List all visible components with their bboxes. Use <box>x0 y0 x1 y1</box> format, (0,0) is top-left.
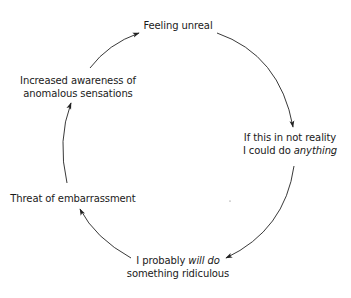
node-label: Threat of embarrassment <box>10 193 135 204</box>
node-label-line2: anomalous sensations <box>18 87 138 100</box>
node-label-line1: Increased awareness of <box>18 74 138 87</box>
emphasis-text: anything <box>294 145 337 156</box>
node-threat: Threat of embarrassment <box>10 192 136 205</box>
arrow-notreality-to-willdo <box>226 166 294 258</box>
node-awareness: Increased awareness of anomalous sensati… <box>18 74 138 100</box>
arrow-feeling-to-notreality <box>217 33 293 127</box>
node-not-reality: If this in not reality I could do anythi… <box>240 131 340 157</box>
node-label-line2: something ridiculous <box>124 267 232 280</box>
arrow-awareness-to-feeling <box>90 33 139 68</box>
arrow-willdo-to-threat <box>80 209 131 258</box>
node-label-line1: If this in not reality <box>240 131 340 144</box>
node-will-do: I probably will do something ridiculous <box>124 254 232 280</box>
cycle-diagram: Feeling unreal If this in not reality I … <box>0 0 351 298</box>
node-label-line1: I probably will do <box>124 254 232 267</box>
scan-artifact-dot <box>229 200 230 201</box>
emphasis-text: will do <box>188 255 219 266</box>
arrow-threat-to-awareness <box>63 103 71 183</box>
node-label-line2: I could do anything <box>240 144 340 157</box>
node-label: Feeling unreal <box>143 20 212 31</box>
node-feeling-unreal: Feeling unreal <box>140 19 216 32</box>
node-label-text: I could do <box>243 145 294 156</box>
node-label-text: I probably <box>136 255 188 266</box>
